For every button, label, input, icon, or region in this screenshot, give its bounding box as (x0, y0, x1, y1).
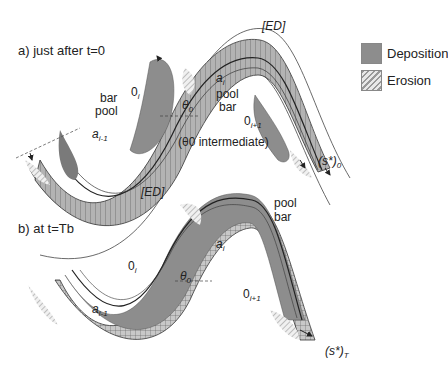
panel-b-channel (28, 194, 315, 340)
s-star-0-label: (s*)0 (318, 155, 341, 170)
theta0-label-b: θ0 (180, 270, 191, 285)
bar-label-a-right: bar (219, 101, 236, 113)
zero-i-label-a: 0i (131, 86, 139, 101)
zero-i-label-b: 0i (128, 260, 136, 275)
a-i-label-b: ai (216, 238, 224, 253)
legend: Deposition Erosion (361, 40, 448, 94)
theta0-label-a: θ0 (182, 99, 193, 114)
pool-label-b: pool (274, 197, 297, 209)
bar-label-b: bar (274, 211, 291, 223)
s-star-T-label: (s*)T (325, 345, 349, 360)
legend-label-deposition: Deposition (387, 46, 448, 61)
a-im1-label-a: ai-1 (92, 128, 108, 143)
pool-label-a-right: pool (216, 88, 239, 100)
legend-item-deposition: Deposition (361, 40, 448, 67)
panel-a-title: a) just after t=0 (18, 44, 105, 57)
zero-ip1-label-b: 0i+1 (243, 288, 261, 303)
legend-label-erosion: Erosion (387, 73, 431, 88)
a-im1-label-b: ai-1 (92, 303, 108, 318)
bar-label-a-left: bar (100, 92, 117, 104)
deposition-swatch (361, 43, 382, 64)
ed-label-top: [ED] (262, 20, 285, 32)
panel-b-title: b) at t=Tb (18, 222, 74, 235)
zero-ip1-label-a: 0i+1 (244, 115, 262, 130)
theta0-intermediate-note: (θ0 intermediate) (178, 136, 269, 148)
erosion-swatch (361, 70, 382, 91)
legend-item-erosion: Erosion (361, 67, 448, 94)
ed-label-bottom: [ED] (141, 186, 164, 198)
pool-label-a-left: pool (95, 105, 118, 117)
a-i-label-a: ai (216, 72, 224, 87)
